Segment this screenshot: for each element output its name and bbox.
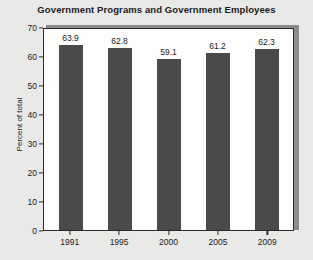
- y-tick-mark: [39, 27, 43, 28]
- x-tick-label: 2000: [144, 237, 193, 247]
- x-tick-mark: [69, 231, 70, 235]
- y-tick-mark: [39, 201, 43, 202]
- x-axis-ticks: 19911995200020052009: [43, 231, 294, 253]
- y-tick-label: 60: [28, 52, 37, 62]
- x-tick: 1995: [94, 231, 143, 253]
- x-tick-mark: [267, 231, 268, 235]
- x-tick-mark: [119, 231, 120, 235]
- y-axis-ticks: 010203040506070: [43, 28, 294, 231]
- x-tick: 1991: [45, 231, 94, 253]
- chart-figure: Government Programs and Government Emplo…: [0, 0, 313, 260]
- y-tick-mark: [39, 85, 43, 86]
- x-tick-label: 2005: [193, 237, 242, 247]
- y-axis-title: Percent of total: [15, 65, 24, 185]
- x-tick: 2009: [243, 231, 292, 253]
- x-tick-label: 1991: [45, 237, 94, 247]
- x-tick-mark: [168, 231, 169, 235]
- y-tick-mark: [39, 56, 43, 57]
- y-tick-label: 20: [28, 168, 37, 178]
- x-tick: 2000: [144, 231, 193, 253]
- y-tick-label: 10: [28, 197, 37, 207]
- y-tick-label: 30: [28, 139, 37, 149]
- y-tick-label: 0: [32, 226, 37, 236]
- chart-title: Government Programs and Government Emplo…: [0, 4, 313, 15]
- x-tick-mark: [217, 231, 218, 235]
- y-tick-label: 40: [28, 110, 37, 120]
- x-tick-label: 1995: [94, 237, 143, 247]
- y-tick-label: 50: [28, 81, 37, 91]
- y-tick-mark: [39, 143, 43, 144]
- y-tick-label: 70: [28, 23, 37, 33]
- x-tick: 2005: [193, 231, 242, 253]
- x-tick-label: 2009: [243, 237, 292, 247]
- y-tick-mark: [39, 172, 43, 173]
- y-tick-mark: [39, 114, 43, 115]
